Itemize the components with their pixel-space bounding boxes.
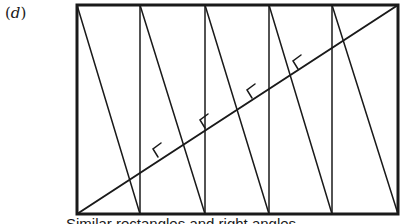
slanted-line bbox=[269, 5, 332, 214]
right-angle-mark bbox=[200, 114, 208, 128]
right-angle-mark bbox=[153, 143, 161, 157]
main-diagonal bbox=[77, 5, 398, 214]
right-angle-mark bbox=[293, 55, 301, 69]
slanted-line bbox=[332, 5, 398, 214]
right-angle-mark bbox=[247, 84, 255, 98]
slanted-line bbox=[77, 5, 140, 214]
rectangle-diagram bbox=[0, 0, 404, 224]
slanted-line bbox=[140, 5, 205, 214]
right-angle-marks bbox=[153, 55, 301, 157]
figure-caption: Similar rectangles and right angles bbox=[66, 215, 296, 224]
